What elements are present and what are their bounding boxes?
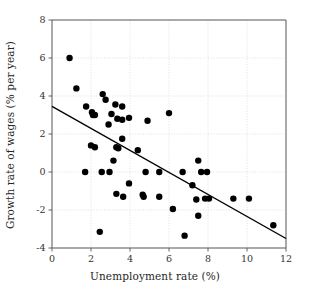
y-axis-title: Growth rate of wages (% per year) (4, 41, 16, 229)
data-point (119, 136, 125, 142)
data-point (189, 182, 195, 188)
data-point (140, 194, 146, 200)
data-point (106, 169, 112, 175)
data-point (166, 110, 172, 116)
data-point (195, 213, 201, 219)
data-point (100, 91, 106, 97)
data-point (99, 169, 105, 175)
data-point (113, 191, 119, 197)
y-tick-label: -4 (36, 242, 45, 253)
y-tick-label: 4 (39, 90, 45, 101)
data-point (115, 145, 121, 151)
data-point (135, 147, 141, 153)
y-tick-label: -2 (36, 204, 45, 215)
data-point (82, 169, 88, 175)
x-tick-label: 2 (88, 253, 94, 264)
x-tick-label: 6 (166, 253, 172, 264)
data-point (156, 169, 162, 175)
data-point (92, 112, 98, 118)
data-point (83, 103, 89, 109)
data-point (195, 157, 201, 163)
tick-marks-group (49, 20, 287, 252)
data-point (270, 222, 276, 228)
data-point (179, 169, 185, 175)
scatter-chart-figure: 024681012-4-202468 Growth rate of wages … (0, 0, 310, 292)
x-tick-label: 4 (127, 253, 133, 264)
x-axis-title: Unemployment rate (%) (0, 270, 310, 282)
data-point (66, 55, 72, 61)
data-point (156, 194, 162, 200)
plot-canvas: 024681012-4-202468 (0, 0, 310, 292)
data-point (193, 196, 199, 202)
data-point (126, 180, 132, 186)
data-point (230, 195, 236, 201)
data-point (108, 111, 114, 117)
data-point (119, 117, 125, 123)
data-point (126, 115, 132, 121)
data-point (120, 194, 126, 200)
gridlines-group (52, 20, 286, 248)
y-axis-title-wrap: Growth rate of wages (% per year) (0, 0, 20, 270)
data-point (105, 121, 111, 127)
data-point (92, 144, 98, 150)
x-tick-label: 8 (205, 253, 211, 264)
data-point (97, 229, 103, 235)
x-tick-label: 12 (280, 253, 292, 264)
data-point (198, 169, 204, 175)
data-point (181, 232, 187, 238)
x-tick-label: 10 (241, 253, 253, 264)
y-tick-label: 0 (39, 166, 45, 177)
data-point (144, 118, 150, 124)
data-point (112, 101, 118, 107)
data-point (102, 97, 108, 103)
data-point (142, 169, 148, 175)
data-point (110, 157, 116, 163)
x-tick-label: 0 (49, 253, 55, 264)
y-tick-label: 8 (39, 14, 45, 25)
tick-labels-group: 024681012-4-202468 (36, 14, 292, 264)
y-tick-label: 2 (39, 128, 45, 139)
data-point (246, 195, 252, 201)
data-point (73, 85, 79, 91)
data-point (119, 103, 125, 109)
data-point (170, 206, 176, 212)
data-point (204, 169, 210, 175)
data-points-group (66, 55, 276, 239)
y-tick-label: 6 (39, 52, 45, 63)
data-point (206, 195, 212, 201)
